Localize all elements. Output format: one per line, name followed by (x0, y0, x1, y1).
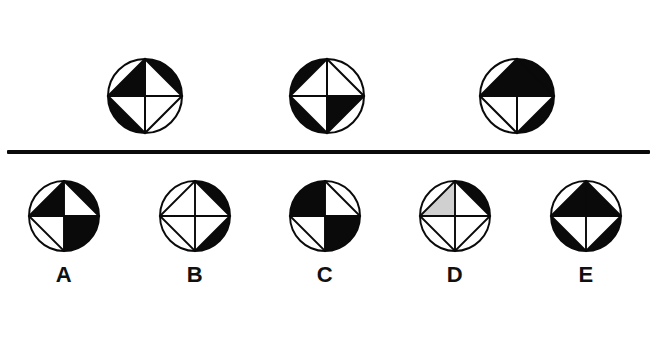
question-figure-1-svg (102, 53, 188, 139)
puzzle-root: ABCDE (0, 0, 657, 344)
label-b[interactable]: B (147, 262, 243, 288)
option-c[interactable] (284, 175, 366, 257)
label-c[interactable]: C (277, 262, 373, 288)
option-b[interactable] (154, 175, 236, 257)
option-b-svg (154, 175, 236, 257)
question-figures-row (0, 50, 657, 145)
option-e[interactable] (545, 175, 627, 257)
question-figure-2-svg (284, 53, 370, 139)
answer-labels-row: ABCDE (0, 262, 657, 298)
question-figure-3 (474, 53, 560, 139)
option-d[interactable] (414, 175, 496, 257)
label-d[interactable]: D (407, 262, 503, 288)
label-a[interactable]: A (16, 262, 112, 288)
section-divider (7, 150, 650, 154)
option-e-svg (545, 175, 627, 257)
question-figure-2 (284, 53, 370, 139)
question-figure-3-svg (474, 53, 560, 139)
option-d-svg (414, 175, 496, 257)
question-figure-1 (102, 53, 188, 139)
option-a[interactable] (23, 175, 105, 257)
label-e[interactable]: E (538, 262, 634, 288)
option-a-svg (23, 175, 105, 257)
option-c-svg (284, 175, 366, 257)
answer-options-row (0, 172, 657, 258)
